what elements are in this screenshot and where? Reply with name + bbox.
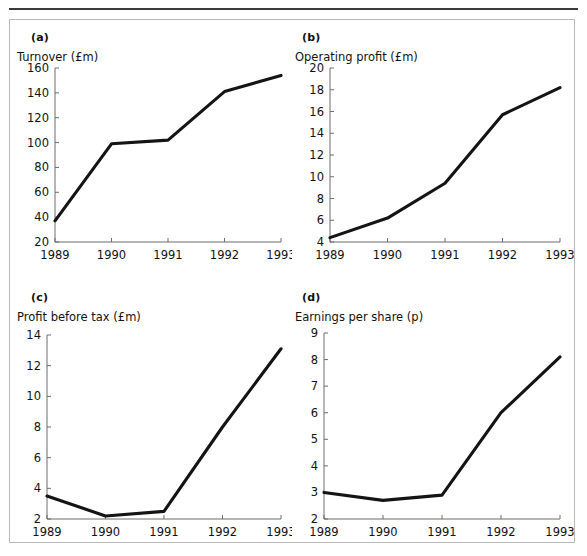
x-tick-label: 1992: [208, 525, 237, 539]
y-tick-label: 16: [309, 105, 324, 119]
y-tick-label: 80: [34, 160, 49, 174]
y-tick-label: 60: [34, 185, 49, 199]
x-tick-label: 1989: [309, 525, 338, 539]
y-tick-label: 40: [34, 210, 49, 224]
y-tick-label: 100: [27, 136, 49, 150]
chart-panel-d: (d) Earnings per share (p) 2345678919891…: [292, 281, 575, 543]
x-tick-label: 1993: [266, 525, 292, 539]
y-tick-label: 20: [34, 235, 49, 249]
y-tick-label: 4: [34, 481, 41, 495]
x-tick-label: 1992: [488, 248, 517, 262]
y-tick-label: 5: [311, 432, 318, 446]
x-tick-label: 1993: [545, 525, 574, 539]
x-tick-label: 1989: [40, 248, 69, 262]
y-tick-label: 4: [317, 235, 324, 249]
x-tick-label: 1989: [32, 525, 61, 539]
y-tick-label: 160: [27, 61, 49, 75]
x-tick-label: 1991: [149, 525, 178, 539]
y-tick-label: 3: [311, 485, 318, 499]
x-tick-label: 1993: [545, 248, 574, 262]
y-tick-label: 4: [311, 459, 318, 473]
y-tick-label: 9: [311, 326, 318, 340]
y-tick-label: 2: [311, 512, 318, 526]
y-tick-label: 8: [311, 353, 318, 367]
plot-area-d: 2345678919891990199119921993: [292, 281, 575, 543]
x-tick-label: 1993: [266, 248, 292, 262]
y-tick-label: 10: [309, 170, 324, 184]
y-tick-label: 8: [34, 420, 41, 434]
chart-panel-a: (a) Turnover (£m) 2040608010012014016019…: [9, 19, 292, 281]
data-series-line: [330, 88, 560, 238]
y-tick-label: 12: [26, 359, 41, 373]
y-tick-label: 14: [26, 328, 41, 342]
x-tick-label: 1991: [427, 525, 456, 539]
y-tick-label: 14: [309, 126, 324, 140]
plot-area-c: 246810121419891990199119921993: [9, 281, 292, 543]
y-tick-label: 12: [309, 148, 324, 162]
x-tick-label: 1991: [430, 248, 459, 262]
y-tick-label: 6: [34, 451, 41, 465]
plot-area-b: 46810121416182019891990199119921993: [292, 19, 575, 281]
data-series-line: [47, 349, 281, 516]
x-tick-label: 1989: [315, 248, 344, 262]
y-tick-label: 7: [311, 379, 318, 393]
x-tick-label: 1990: [97, 248, 126, 262]
y-tick-label: 140: [27, 86, 49, 100]
y-tick-label: 6: [317, 213, 324, 227]
x-tick-label: 1990: [91, 525, 120, 539]
y-tick-label: 20: [309, 61, 324, 75]
plot-area-a: 2040608010012014016019891990199119921993: [9, 19, 292, 281]
x-tick-label: 1992: [486, 525, 515, 539]
y-tick-label: 8: [317, 192, 324, 206]
x-tick-label: 1992: [210, 248, 239, 262]
x-tick-label: 1990: [373, 248, 402, 262]
data-series-line: [55, 75, 281, 220]
y-tick-label: 18: [309, 83, 324, 97]
y-tick-label: 120: [27, 111, 49, 125]
y-tick-label: 6: [311, 406, 318, 420]
chart-panel-c: (c) Profit before tax (£m) 2468101214198…: [9, 281, 292, 543]
y-tick-label: 10: [26, 389, 41, 403]
chart-panel-b: (b) Operating profit (£m) 46810121416182…: [292, 19, 575, 281]
data-series-line: [324, 357, 560, 500]
y-tick-label: 2: [34, 512, 41, 526]
top-rule-divider: [9, 8, 578, 10]
x-tick-label: 1991: [153, 248, 182, 262]
x-tick-label: 1990: [368, 525, 397, 539]
figure-panel-grid: (a) Turnover (£m) 2040608010012014016019…: [0, 0, 587, 556]
